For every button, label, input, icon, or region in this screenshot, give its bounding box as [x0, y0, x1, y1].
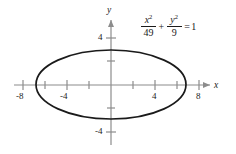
- x-term-fraction: x2 49: [141, 14, 156, 38]
- x-term-denominator: 49: [142, 27, 156, 38]
- y-axis-label: y: [107, 6, 111, 16]
- equation-annotation: x2 49 + y2 9 = 1: [140, 14, 196, 38]
- x-axis: [14, 82, 210, 88]
- x-axis-arrowhead: [203, 82, 210, 88]
- x-tick-label-4: 4: [152, 92, 157, 101]
- x-tick-label--8: -8: [16, 92, 24, 101]
- y-term-numerator: y2: [168, 14, 180, 26]
- y-term-denominator: 9: [170, 27, 179, 38]
- y-tick-label--4: -4: [95, 127, 103, 136]
- y-axis-arrowhead: [108, 20, 114, 27]
- x-axis-label: x: [214, 81, 218, 91]
- y-tick-label-4: 4: [98, 33, 103, 42]
- equation-right-side: 1: [191, 21, 196, 32]
- y-exponent: 2: [175, 13, 178, 20]
- y-axis: [108, 20, 114, 145]
- y-term-fraction: y2 9: [167, 14, 182, 38]
- plot-canvas: [0, 0, 236, 154]
- plus-operator: +: [159, 21, 165, 32]
- x-term-numerator: x2: [143, 14, 155, 26]
- ellipse-figure: -8 -4 4 8 4 -4 x y x2 49 + y2 9 = 1: [0, 0, 236, 154]
- x-tick-label-8: 8: [196, 92, 201, 101]
- x-exponent: 2: [149, 13, 152, 20]
- equals-operator: =: [184, 21, 190, 32]
- x-tick-label--4: -4: [60, 92, 68, 101]
